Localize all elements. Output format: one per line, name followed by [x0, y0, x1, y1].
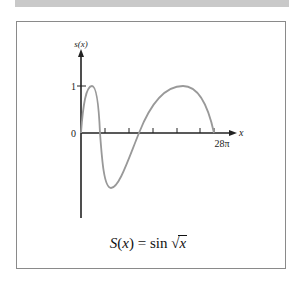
- y-axis-label: s(x): [74, 39, 88, 49]
- formula-radicand: x: [179, 235, 186, 251]
- formula-eq-sin: = sin: [134, 235, 171, 251]
- formula-x: x: [122, 235, 129, 251]
- formula-S: S: [110, 235, 118, 251]
- function-formula: S(x) = sin √x: [0, 235, 297, 252]
- x-axis-arrow-icon: [229, 130, 237, 136]
- curve-sin-sqrt-x: [81, 86, 214, 188]
- x-axis-label: x: [238, 127, 244, 138]
- y-tick-label-1: 1: [71, 81, 76, 92]
- origin-label: 0: [71, 128, 76, 139]
- y-axis-arrow-icon: [78, 49, 84, 57]
- x-tick-label-28pi: 28π: [214, 138, 229, 149]
